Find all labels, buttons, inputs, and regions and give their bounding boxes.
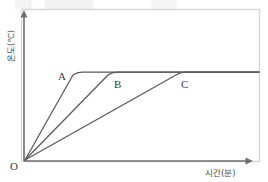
curve-b (25, 72, 259, 160)
curve-label-c: C (181, 78, 188, 90)
curves-group (25, 72, 259, 160)
y-axis-arrow-icon (21, 10, 28, 18)
axes-group (21, 10, 253, 164)
figure-screenshot: 온도(℃) 시간(분) O A B C (0, 0, 268, 182)
curve-a (25, 72, 259, 160)
origin-label: O (10, 160, 18, 172)
curve-label-a: A (58, 70, 66, 82)
y-axis-label: 온도(℃) (4, 24, 16, 68)
curve-label-b: B (114, 78, 121, 90)
x-axis-arrow-icon (246, 158, 254, 165)
plot-area (0, 0, 268, 182)
curve-c (25, 72, 259, 160)
x-axis-label: 시간(분) (205, 166, 236, 178)
